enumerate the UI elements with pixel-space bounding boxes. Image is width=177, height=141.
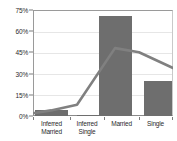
y-tick-label: 75% [16, 7, 28, 14]
y-tick-label: 0% [19, 113, 28, 120]
chart-container: 75% 60% 45% 30% 15% 0% Inferred Married [0, 0, 177, 141]
x-label-line: Inferred [69, 120, 105, 128]
x-tick-label-inferred-married: Inferred Married [32, 120, 71, 135]
y-tick-label: 30% [16, 70, 28, 77]
x-label-line: Single [69, 128, 105, 136]
x-label-line: Single [139, 120, 172, 128]
x-tick-label-inferred-single: Inferred Single [69, 120, 105, 135]
x-label-line: Married [32, 128, 71, 136]
x-axis: Inferred Married Inferred Single Married… [33, 117, 173, 141]
y-axis: 75% 60% 45% 30% 15% 0% [0, 10, 33, 117]
y-tick-label: 60% [16, 28, 28, 35]
y-tick-label: 45% [16, 49, 28, 56]
x-tick-label-married: Married [104, 120, 139, 128]
line-series [33, 10, 173, 116]
line-path [33, 48, 173, 113]
x-label-line: Married [104, 120, 139, 128]
x-tick-mark [172, 117, 173, 120]
y-tick-label: 15% [16, 91, 28, 98]
x-label-line: Inferred [32, 120, 71, 128]
x-tick-label-single: Single [139, 120, 172, 128]
